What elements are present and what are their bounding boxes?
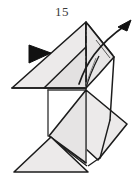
origami-diagram-canvas: 15: [0, 0, 138, 177]
step-number-label: 15: [55, 4, 69, 19]
origami-diagram-figure: 15: [0, 0, 138, 177]
